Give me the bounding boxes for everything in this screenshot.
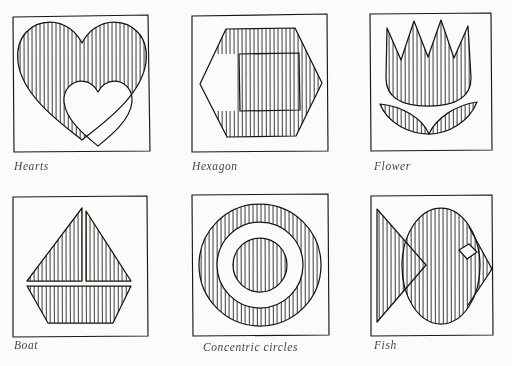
small-heart-outline	[64, 81, 132, 146]
panel-frame	[192, 194, 329, 336]
panel-flower: Flower	[356, 0, 512, 183]
panel-boat: Boat	[0, 183, 176, 366]
panel-concentric-circles: Concentric circles	[176, 183, 356, 366]
hearts-drawing	[0, 0, 176, 183]
panel-fish: Fish	[356, 183, 512, 366]
panel-caption: Flower	[374, 160, 411, 172]
boat-hatching	[30, 203, 130, 328]
panel-hexagon: Hexagon	[176, 0, 356, 183]
panel-caption: Hearts	[14, 160, 49, 172]
flower-drawing	[356, 0, 512, 183]
middle-circle-outline	[217, 222, 303, 308]
hearts-hatching	[20, 18, 144, 148]
fish-eye-outline	[459, 244, 477, 259]
panel-caption: Hexagon	[192, 160, 238, 172]
panel-frame	[192, 14, 328, 152]
panel-grid: Hearts	[0, 0, 512, 366]
panel-frame	[13, 196, 148, 337]
hull-outline	[27, 286, 131, 323]
panel-caption: Concentric circles	[203, 341, 298, 353]
panel-caption: Fish	[374, 339, 397, 351]
square-hole-outline	[239, 53, 300, 111]
fish-body-outline	[402, 208, 480, 324]
shape-designs-plate: Hearts	[0, 0, 512, 366]
panel-hearts: Hearts	[0, 0, 176, 183]
hexagon-drawing	[176, 0, 356, 183]
concentric-circles-drawing	[176, 183, 356, 366]
panel-caption: Boat	[14, 339, 38, 351]
fish-hatching	[379, 201, 491, 331]
blossom-outline	[386, 20, 471, 106]
right-sail-outline	[86, 211, 131, 281]
